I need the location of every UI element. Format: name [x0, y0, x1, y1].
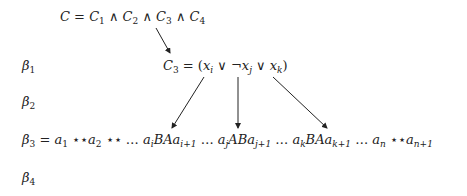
- clause-c3: C3 = (xi ∨ ¬xj ∨ xk): [163, 58, 288, 74]
- label-beta-4: β4: [22, 170, 35, 186]
- arrow-xi: [172, 77, 204, 128]
- label-beta-2: β2: [22, 94, 35, 110]
- arrows-layer: [0, 0, 467, 196]
- label-beta-1: β1: [22, 58, 35, 74]
- string-beta-3: β3 = a1 ⋆⋆a2 ⋆⋆ … aiBAai+1 … ajABaj+1 … …: [22, 132, 433, 148]
- formula-conjunction: C = C1 ∧ C2 ∧ C3 ∧ C4: [60, 9, 205, 25]
- arrow-formula-to-clause: [156, 28, 170, 53]
- arrow-xk: [273, 77, 327, 128]
